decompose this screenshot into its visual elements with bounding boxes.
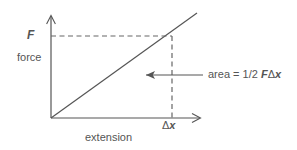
area-annotation-extension-symbol: x bbox=[275, 68, 281, 80]
force-extension-diagram: F force extension Δx area = 1/2 FΔx bbox=[0, 0, 297, 150]
x-axis-title-extension: extension bbox=[85, 132, 132, 143]
x-glyph: x bbox=[169, 119, 175, 131]
y-axis-title-force: force bbox=[17, 52, 41, 63]
area-annotation: area = 1/2 FΔx bbox=[208, 69, 281, 80]
force-extension-line bbox=[51, 13, 197, 118]
x-axis-value-label-delta-x: Δx bbox=[162, 120, 175, 131]
area-annotation-force-symbol: F bbox=[261, 68, 268, 80]
area-annotation-prefix: area = 1/2 bbox=[208, 68, 261, 80]
y-axis-value-label-F: F bbox=[27, 29, 34, 41]
area-annotation-delta-symbol: Δ bbox=[268, 68, 275, 80]
